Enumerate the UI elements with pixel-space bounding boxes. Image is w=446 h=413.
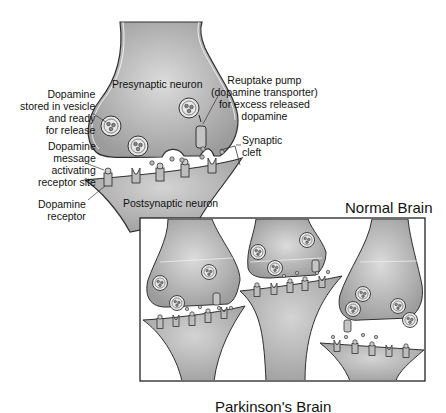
receptor-label: Dopamine receptor [38,198,86,222]
vesicle-label: Dopamine stored in vesicle and ready for… [20,88,95,136]
parkinsons-brain-title: Parkinson's Brain [215,398,331,413]
postsynaptic-label: Postsynaptic neuron [123,197,218,209]
vesicle [128,136,148,156]
cleft-label: Synaptic cleft [242,134,282,158]
normal-brain-title: Normal Brain [345,199,433,216]
reuptake-label: Reuptake pump (dopamine transporter) for… [211,74,318,122]
vesicle [101,116,121,136]
message-label: Dopamine message activating receptor sit… [38,140,96,188]
vesicle [179,98,199,118]
presynaptic-label: Presynaptic neuron [112,78,202,90]
